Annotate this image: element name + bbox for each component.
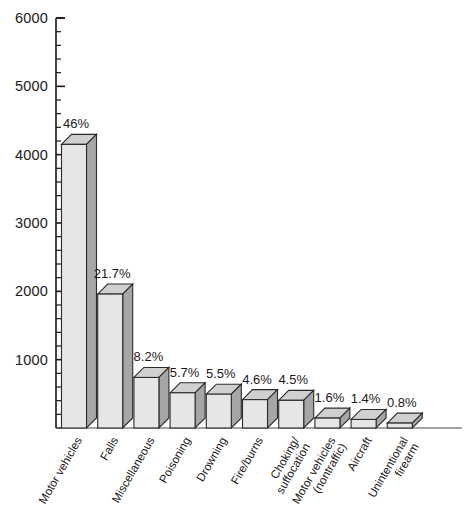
bar: [134, 367, 169, 428]
category-label-line: Motor vehicles: [36, 434, 85, 505]
bar: [170, 383, 205, 428]
bar-value-label: 5.7%: [170, 365, 200, 380]
category-label: Unintentionalfirearm: [365, 435, 421, 506]
bar: [243, 390, 278, 428]
bar-front-face: [243, 400, 268, 428]
category-label-line: Poisoning: [156, 435, 193, 486]
bar-front-face: [134, 377, 159, 428]
bar-value-label: 1.6%: [315, 390, 345, 405]
bar-value-label: 0.8%: [387, 395, 417, 410]
y-tick-label: 2000: [15, 283, 48, 299]
y-tick-label: 5000: [15, 78, 48, 94]
category-label-line: Fire/burns: [228, 434, 265, 486]
bar: [279, 390, 314, 428]
bar-value-label: 1.4%: [351, 391, 381, 406]
bar-side-face: [123, 284, 133, 428]
category-label: Poisoning: [156, 435, 193, 486]
category-label-line: Aircraft: [344, 434, 374, 473]
y-tick-label: 6000: [15, 10, 48, 26]
bar-side-face: [159, 367, 169, 428]
category-label: Falls: [97, 434, 121, 462]
bar: [351, 409, 386, 428]
bar-value-label: 4.5%: [278, 372, 308, 387]
bar: [315, 408, 350, 428]
bar: [62, 134, 97, 428]
bar: [98, 284, 133, 428]
bar-front-face: [387, 423, 412, 428]
chart-canvas: 600050004000300020001000 46%21.7%8.2%5.7…: [0, 0, 470, 515]
bar-side-face: [87, 134, 97, 428]
y-tick-label: 1000: [15, 352, 48, 368]
bar-chart: 600050004000300020001000 46%21.7%8.2%5.7…: [0, 0, 470, 515]
bar-front-face: [206, 394, 231, 428]
bar: [206, 384, 241, 428]
bar: [387, 413, 422, 428]
category-label: Fire/burns: [228, 434, 265, 486]
category-label-line: Falls: [97, 434, 121, 462]
bar-value-label: 21.7%: [94, 266, 131, 281]
bar-front-face: [315, 418, 340, 428]
bar-value-label: 8.2%: [134, 349, 164, 364]
category-label: Drowning: [193, 435, 229, 484]
bar-front-face: [279, 400, 304, 428]
category-label-line: Drowning: [193, 435, 229, 484]
category-label: Aircraft: [344, 434, 374, 473]
category-labels-group: Motor vehiclesFallsMiscellaneousPoisonin…: [36, 434, 421, 512]
bar-front-face: [170, 393, 195, 428]
bar-value-label: 5.5%: [206, 366, 236, 381]
y-tick-label: 3000: [15, 215, 48, 231]
y-tick-label: 4000: [15, 147, 48, 163]
category-label: Motor vehicles: [36, 434, 85, 505]
bar-front-face: [98, 294, 123, 428]
y-axis: 600050004000300020001000: [15, 10, 65, 428]
bar-value-label: 46%: [63, 116, 89, 131]
bar-front-face: [351, 419, 376, 428]
bar-front-face: [62, 144, 87, 428]
bar-value-label: 4.6%: [242, 372, 272, 387]
